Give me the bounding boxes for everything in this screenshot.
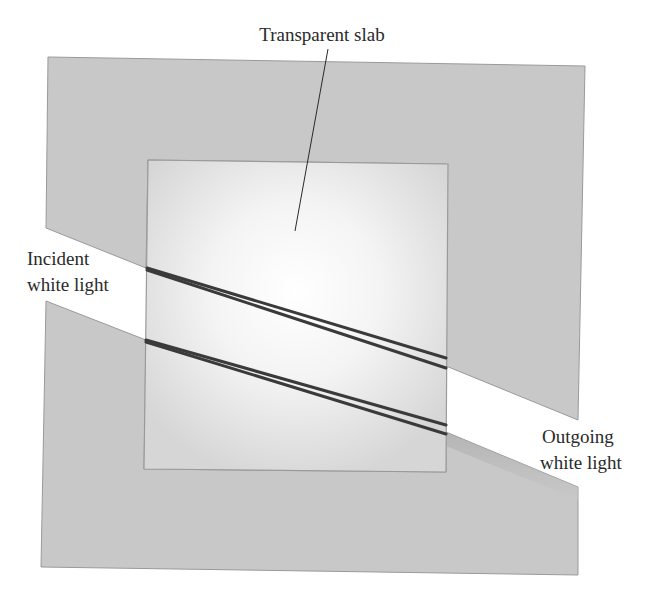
- outgoing-label-line1: Outgoing: [542, 426, 614, 447]
- incident-label-line1: Incident: [27, 248, 90, 269]
- incident-label-line2: white light: [27, 274, 110, 295]
- refraction-diagram: Transparent slab Incident white light Ou…: [0, 0, 654, 591]
- transparent-slab: [144, 160, 448, 472]
- slab-label: Transparent slab: [259, 24, 384, 45]
- outgoing-label-line2: white light: [540, 452, 623, 473]
